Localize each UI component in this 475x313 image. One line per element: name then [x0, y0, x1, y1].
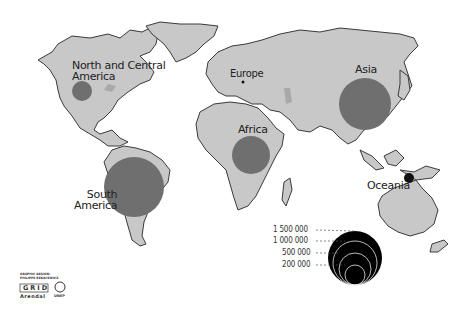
- label-europe: Europe: [230, 68, 263, 79]
- label-line: America: [72, 71, 165, 82]
- legend-label-500000: 500 000: [282, 248, 310, 257]
- madagascar-landmass: [282, 178, 292, 206]
- legend-circles: [316, 230, 382, 285]
- credit-unep: UNEP: [54, 294, 65, 298]
- indonesia-landmass: [360, 150, 440, 180]
- world-map: [0, 0, 475, 313]
- legend-label-1500000: 1 500 000: [273, 225, 308, 234]
- unep-logo: [55, 282, 65, 292]
- label-oceania: Oceania: [367, 180, 410, 191]
- new-zealand-landmass: [430, 240, 448, 252]
- bubble-africa: [232, 136, 270, 174]
- label-asia: Asia: [355, 64, 377, 75]
- label-north-and-central-america: North and Central America: [72, 60, 165, 82]
- bubble-europe: [242, 81, 245, 84]
- bubble-asia: [339, 78, 391, 130]
- label-line: America: [74, 200, 117, 211]
- credit-place: Arendal: [20, 293, 45, 299]
- bubble-north-and-central-america: [72, 81, 92, 101]
- label-africa: Africa: [238, 124, 268, 135]
- label-south-america: South America: [74, 189, 117, 211]
- legend-label-1000000: 1 000 000: [273, 236, 308, 245]
- grid-logo-text: GRID: [23, 284, 49, 292]
- north-america-landmass: [38, 28, 158, 146]
- legend-label-200000: 200 000: [282, 260, 310, 269]
- credit-line: PHILIPPE REKACEWICZ: [20, 277, 58, 281]
- credit-designer: GRAPHIC DESIGN: PHILIPPE REKACEWICZ: [20, 273, 58, 280]
